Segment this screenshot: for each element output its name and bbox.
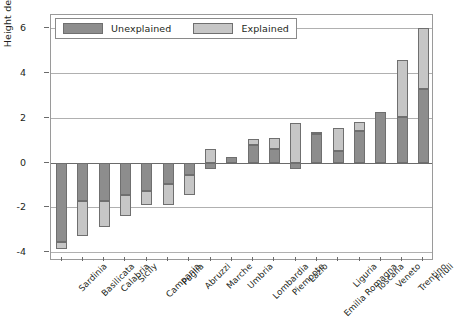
x-tick-mark [316, 257, 317, 261]
x-tick-mark [422, 257, 423, 261]
x-tick-label: Lazio [306, 261, 329, 284]
x-tick-mark [210, 257, 211, 261]
bar-segment-explained[interactable] [184, 175, 195, 195]
y-tick-label: -4 [0, 246, 26, 257]
bar-segment-explained[interactable] [77, 201, 88, 237]
figure-caption [14, 320, 438, 330]
bar-segment-explained[interactable] [333, 128, 344, 151]
x-tick-mark [61, 257, 62, 261]
bar-segment-unexplained[interactable] [99, 163, 110, 201]
bar-segment-unexplained[interactable] [205, 163, 216, 170]
bar-group[interactable] [141, 15, 152, 259]
legend-item-explained: Explained [193, 23, 289, 34]
y-tick-label: 2 [0, 111, 26, 122]
x-tick-mark [231, 257, 232, 261]
bar-segment-unexplained[interactable] [397, 117, 408, 163]
bar-segment-unexplained[interactable] [290, 163, 301, 170]
plot-area [51, 15, 432, 259]
bar-segment-unexplained[interactable] [269, 149, 280, 162]
x-tick-mark [82, 257, 83, 261]
bar-segment-explained[interactable] [269, 138, 280, 149]
y-tick-label: 4 [0, 67, 26, 78]
x-tick-mark [167, 257, 168, 261]
bar-segment-unexplained[interactable] [184, 163, 195, 175]
bar-segment-explained[interactable] [248, 139, 259, 145]
bar-segment-explained[interactable] [141, 191, 152, 206]
bar-segment-unexplained[interactable] [248, 145, 259, 163]
bar-segment-explained[interactable] [99, 201, 110, 228]
bar-segment-explained[interactable] [311, 132, 322, 134]
x-tick-mark [401, 257, 402, 261]
bar-segment-explained[interactable] [56, 242, 67, 249]
y-tick-mark [44, 162, 49, 163]
bar-segment-unexplained[interactable] [226, 157, 237, 163]
bar-segment-unexplained[interactable] [120, 163, 131, 195]
bar-segment-unexplained[interactable] [141, 163, 152, 191]
bar-group[interactable] [77, 15, 88, 259]
x-tick-mark [380, 257, 381, 261]
x-tick-mark [103, 257, 104, 261]
y-tick-mark [44, 117, 49, 118]
explained-swatch-icon [193, 23, 233, 34]
legend-item-unexplained: Unexplained [63, 23, 193, 34]
bar-segment-unexplained[interactable] [418, 89, 429, 163]
x-tick-mark [273, 257, 274, 261]
x-tick-mark [337, 257, 338, 261]
plot-frame [50, 14, 433, 260]
bar-segment-explained[interactable] [205, 149, 216, 162]
y-axis-title: Height deviation (cm) [2, 0, 18, 74]
y-tick-label: -2 [0, 201, 26, 212]
bar-segment-unexplained[interactable] [56, 163, 67, 242]
bar-group[interactable] [418, 15, 429, 259]
bar-group[interactable] [397, 15, 408, 259]
bar-group[interactable] [163, 15, 174, 259]
bar-group[interactable] [333, 15, 344, 259]
bar-segment-explained[interactable] [397, 60, 408, 117]
x-tick-mark [295, 257, 296, 261]
bar-group[interactable] [205, 15, 216, 259]
unexplained-swatch-icon [63, 23, 103, 34]
bar-segment-unexplained[interactable] [375, 112, 386, 162]
bar-segment-unexplained[interactable] [333, 151, 344, 162]
bar-segment-explained[interactable] [354, 122, 365, 131]
y-tick-mark [44, 206, 49, 207]
x-axis-labels: SardiniaBasilicataCalabriaSicilyCampania… [50, 261, 433, 321]
y-tick-mark [44, 27, 49, 28]
bar-group[interactable] [226, 15, 237, 259]
y-tick-mark [44, 251, 49, 252]
bar-group[interactable] [248, 15, 259, 259]
legend-label-explained: Explained [241, 23, 289, 34]
x-tick-mark [359, 257, 360, 261]
y-tick-label: 0 [0, 156, 26, 167]
bar-group[interactable] [184, 15, 195, 259]
bar-segment-unexplained[interactable] [77, 163, 88, 201]
bar-group[interactable] [311, 15, 322, 259]
bar-segment-unexplained[interactable] [311, 134, 322, 163]
x-tick-mark [124, 257, 125, 261]
bar-group[interactable] [354, 15, 365, 259]
x-tick-mark [146, 257, 147, 261]
bar-segment-unexplained[interactable] [354, 131, 365, 162]
chart-legend: Unexplained Explained [55, 18, 297, 39]
bar-group[interactable] [120, 15, 131, 259]
bar-segment-explained[interactable] [290, 123, 301, 162]
bar-segment-explained[interactable] [418, 28, 429, 88]
bar-segment-explained[interactable] [120, 195, 131, 216]
bar-group[interactable] [290, 15, 301, 259]
bar-group[interactable] [99, 15, 110, 259]
y-tick-mark [44, 72, 49, 73]
legend-label-unexplained: Unexplained [111, 23, 171, 34]
x-tick-mark [252, 257, 253, 261]
bar-segment-explained[interactable] [163, 184, 174, 205]
bar-group[interactable] [269, 15, 280, 259]
bar-group[interactable] [56, 15, 67, 259]
bar-segment-unexplained[interactable] [163, 163, 174, 184]
y-tick-label: 6 [0, 22, 26, 33]
bar-group[interactable] [375, 15, 386, 259]
x-tick-mark [188, 257, 189, 261]
